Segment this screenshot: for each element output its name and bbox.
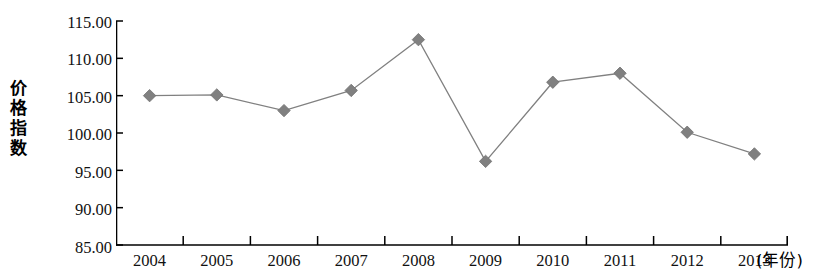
y-tick-label: 90.00 (75, 202, 112, 219)
y-tick-label: 100.00 (67, 127, 112, 144)
x-tick-label: 2007 (335, 252, 368, 270)
plot-area (116, 14, 796, 248)
data-point-marker[interactable] (211, 89, 223, 101)
data-point-marker[interactable] (412, 33, 424, 45)
y-axis-title-char: 指 (10, 118, 27, 138)
plot-svg (116, 14, 796, 248)
y-axis-title-char: 价 (10, 78, 27, 98)
x-tick-label: 2011 (604, 252, 636, 270)
x-tick-label: 2008 (402, 252, 435, 270)
x-tick-label: 2005 (200, 252, 233, 270)
data-point-marker[interactable] (345, 84, 357, 96)
line-chart: 价 格 指 数 115.00 110.00 105.00 100.00 95.0… (0, 0, 817, 279)
x-tick-label: 2004 (133, 252, 166, 270)
y-axis-title-char: 数 (10, 138, 27, 158)
x-axis-tick-labels: 2004200520062007200820092010201120122013 (116, 252, 796, 276)
y-axis-title-char: 格 (10, 98, 27, 118)
data-point-marker[interactable] (748, 148, 760, 160)
x-tick-label: 2012 (671, 252, 704, 270)
x-tick-label: 2010 (536, 252, 569, 270)
y-tick-label: 105.00 (67, 90, 112, 107)
series-line (150, 40, 755, 162)
x-axis-ticks (183, 236, 721, 245)
y-axis-tick-labels: 115.00 110.00 105.00 100.00 95.00 90.00 … (30, 0, 112, 279)
y-tick-label: 115.00 (67, 15, 112, 32)
data-point-marker[interactable] (143, 89, 155, 101)
x-tick-label: 2006 (268, 252, 301, 270)
y-tick-label: 95.00 (75, 165, 112, 182)
x-tick-label: 2009 (469, 252, 502, 270)
y-tick-label: 110.00 (67, 52, 112, 69)
data-point-marker[interactable] (278, 104, 290, 116)
y-tick-label: 85.00 (75, 240, 112, 257)
x-axis-unit-label: (年份) (756, 252, 803, 270)
